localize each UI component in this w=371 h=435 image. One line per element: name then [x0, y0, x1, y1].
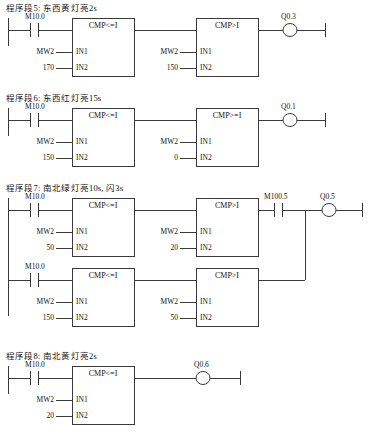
compare-block-name[interactable]: CMP>I — [204, 271, 250, 280]
block-pin-in2: IN2 — [76, 411, 88, 420]
block-operand-in2[interactable]: 20 — [142, 243, 178, 252]
block-pin-in1: IN1 — [76, 227, 88, 236]
block-operand-in1[interactable]: MW2 — [142, 227, 178, 236]
output-coil-address[interactable]: Q0.5 — [320, 192, 335, 201]
compare-block-name[interactable]: CMP<=I — [80, 21, 126, 30]
contact-address-m10-0[interactable]: M10.0 — [25, 102, 45, 111]
block-operand-in1[interactable]: MW2 — [18, 137, 54, 146]
block-operand-in1[interactable]: MW2 — [18, 297, 54, 306]
block-pin-in2: IN2 — [200, 313, 212, 322]
block-pin-in1: IN1 — [200, 227, 212, 236]
block-operand-in1[interactable]: MW2 — [142, 137, 178, 146]
block-operand-in2[interactable]: 50 — [142, 313, 178, 322]
compare-block-name[interactable]: CMP<=I — [80, 271, 126, 280]
block-operand-in1[interactable]: MW2 — [18, 227, 54, 236]
series-contact-address-m100-5[interactable]: M100.5 — [264, 192, 288, 201]
block-pin-in2: IN2 — [76, 313, 88, 322]
block-pin-in1: IN1 — [76, 47, 88, 56]
block-operand-in1[interactable]: MW2 — [142, 47, 178, 56]
ladder-diagram-canvas: 程序段5: 东西黄灯亮2s — [0, 0, 371, 435]
output-coil-address[interactable]: Q0.3 — [281, 12, 296, 21]
network-title-7: 程序段7: 南北绿灯亮10s, 闪3s — [6, 181, 123, 193]
compare-block-name[interactable]: CMP>I — [204, 201, 250, 210]
block-operand-in2[interactable]: 50 — [18, 243, 54, 252]
contact-address-m10-0[interactable]: M10.0 — [25, 192, 45, 201]
block-pin-in1: IN1 — [76, 297, 88, 306]
block-pin-in1: IN1 — [200, 137, 212, 146]
compare-block-name[interactable]: CMP>I — [204, 21, 250, 30]
block-pin-in1: IN1 — [200, 297, 212, 306]
block-pin-in1: IN1 — [76, 395, 88, 404]
network-title-6: 程序段6: 东西红灯亮15s — [6, 91, 101, 103]
block-pin-in2: IN2 — [76, 63, 88, 72]
block-operand-in2[interactable]: 170 — [18, 63, 54, 72]
network-title-8: 程序段8: 南北黄灯亮2s — [6, 349, 97, 361]
block-operand-in1[interactable]: MW2 — [18, 47, 54, 56]
block-operand-in2[interactable]: 20 — [18, 411, 54, 420]
block-operand-in1[interactable]: MW2 — [142, 297, 178, 306]
block-operand-in2[interactable]: 150 — [18, 153, 54, 162]
compare-block-name[interactable]: CMP<=I — [80, 111, 126, 120]
block-operand-in2[interactable]: 150 — [18, 313, 54, 322]
output-coil-address[interactable]: Q0.6 — [194, 360, 209, 369]
block-pin-in1: IN1 — [76, 137, 88, 146]
block-pin-in2: IN2 — [200, 63, 212, 72]
contact-address-m10-0[interactable]: M10.0 — [25, 360, 45, 369]
output-coil-address[interactable]: Q0.1 — [281, 102, 296, 111]
block-operand-in2[interactable]: 150 — [142, 63, 178, 72]
block-pin-in2: IN2 — [200, 243, 212, 252]
block-pin-in2: IN2 — [76, 153, 88, 162]
compare-block-name[interactable]: CMP<=I — [80, 201, 126, 210]
contact-address-m10-0[interactable]: M10.0 — [25, 262, 45, 271]
block-operand-in1[interactable]: MW2 — [18, 395, 54, 404]
ladder-wiring — [0, 0, 371, 435]
compare-block-name[interactable]: CMP<=I — [80, 369, 126, 378]
block-operand-in2[interactable]: 0 — [142, 153, 178, 162]
block-pin-in1: IN1 — [200, 47, 212, 56]
block-pin-in2: IN2 — [200, 153, 212, 162]
compare-block-name[interactable]: CMP>=I — [204, 111, 250, 120]
contact-address-m10-0[interactable]: M10.0 — [25, 12, 45, 21]
block-pin-in2: IN2 — [76, 243, 88, 252]
